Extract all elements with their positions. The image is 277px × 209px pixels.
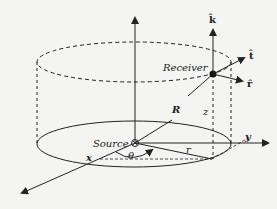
- R-label: R: [171, 104, 180, 115]
- R-vector-line: [135, 120, 172, 143]
- r-hat-vector: [213, 74, 242, 81]
- z-label: z: [202, 106, 209, 117]
- r-hat-label: r̂: [247, 78, 253, 89]
- cylindrical-coordinate-diagram: Receiver Source R z r x y θ k̂ t̂ r̂: [0, 0, 277, 209]
- r-label: r: [186, 144, 192, 155]
- r-radius-line: [135, 143, 212, 159]
- t-hat-label: t̂: [248, 49, 254, 61]
- source-label: Source: [93, 138, 129, 149]
- x-axis: [22, 143, 135, 193]
- receiver-label: Receiver: [162, 62, 209, 73]
- t-hat-vector: [213, 58, 244, 74]
- R-vector-line-upper: [188, 74, 213, 96]
- y-label: y: [244, 131, 252, 142]
- theta-label: θ: [128, 150, 134, 161]
- k-hat-label: k̂: [208, 13, 217, 25]
- x-label: x: [85, 152, 93, 163]
